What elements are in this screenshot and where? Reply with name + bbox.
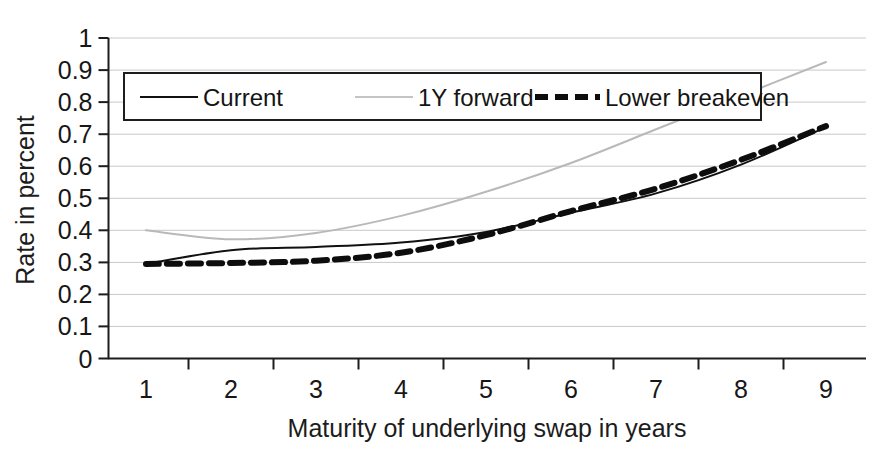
y-tick-label: 0.6 bbox=[58, 152, 93, 180]
y-tick-label: 0.4 bbox=[58, 216, 93, 244]
y-tick-label: 0 bbox=[79, 345, 93, 373]
y-tick-label: 0.5 bbox=[58, 184, 93, 212]
legend-label-1y-forward: 1Y forward bbox=[418, 84, 534, 111]
x-tick-label: 1 bbox=[139, 375, 153, 403]
chart-legend: Current 1Y forward Lower breakeven bbox=[124, 73, 789, 120]
x-tick-label: 9 bbox=[819, 375, 833, 403]
x-tick-label: 6 bbox=[564, 375, 578, 403]
y-tick-label: 0.3 bbox=[58, 248, 93, 276]
x-tick-label: 5 bbox=[479, 375, 493, 403]
chart-background bbox=[0, 0, 887, 462]
x-axis-title: Maturity of underlying swap in years bbox=[288, 414, 687, 442]
y-tick-label: 0.2 bbox=[58, 280, 93, 308]
x-tick-label: 3 bbox=[309, 375, 323, 403]
x-tick-label: 7 bbox=[649, 375, 663, 403]
y-tick-label: 0.9 bbox=[58, 56, 93, 84]
legend-label-lower-breakeven: Lower breakeven bbox=[605, 84, 789, 111]
y-tick-label: 0.8 bbox=[58, 88, 93, 116]
legend-label-current: Current bbox=[203, 84, 283, 111]
y-tick-label: 0.1 bbox=[58, 312, 93, 340]
x-tick-label: 4 bbox=[394, 375, 408, 403]
y-axis-title: Rate in percent bbox=[11, 115, 39, 285]
y-tick-label: 1 bbox=[79, 24, 93, 52]
chart-canvas: 00.10.20.30.40.50.60.70.80.91 123456789 … bbox=[0, 0, 887, 462]
y-tick-label: 0.7 bbox=[58, 120, 93, 148]
x-tick-label: 8 bbox=[734, 375, 748, 403]
x-tick-label: 2 bbox=[224, 375, 238, 403]
